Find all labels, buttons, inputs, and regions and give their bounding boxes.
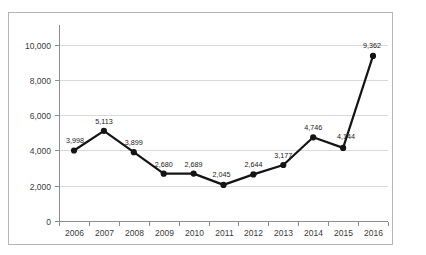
data-point bbox=[161, 171, 167, 177]
data-point-label: 2,045 bbox=[213, 170, 231, 179]
data-point bbox=[370, 53, 376, 59]
line-chart: 02,0004,0006,0008,00010,000 200620072008… bbox=[9, 13, 392, 244]
data-point bbox=[101, 128, 107, 134]
data-point-label: 3,998 bbox=[66, 136, 84, 145]
y-tick-label: 8,000 bbox=[30, 76, 52, 86]
data-point bbox=[131, 149, 137, 155]
data-point-label: 9,362 bbox=[363, 41, 381, 50]
y-tick-labels: 02,0004,0006,0008,00010,000 bbox=[25, 41, 51, 227]
x-tick-label: 2013 bbox=[274, 228, 293, 238]
y-tick-label: 6,000 bbox=[30, 111, 52, 121]
series-line bbox=[74, 56, 373, 185]
chart-frame: 02,0004,0006,0008,00010,000 200620072008… bbox=[8, 12, 393, 245]
series-markers bbox=[71, 53, 376, 188]
x-tick-labels: 2006200720082009201020112012201320142015… bbox=[65, 228, 383, 238]
y-tick-label: 0 bbox=[46, 217, 51, 227]
x-tick-label: 2011 bbox=[215, 228, 234, 238]
data-point-label: 3,899 bbox=[125, 138, 143, 147]
x-tick-label: 2012 bbox=[244, 228, 263, 238]
data-point-label: 4,144 bbox=[337, 132, 355, 141]
data-point-label: 2,644 bbox=[244, 160, 262, 169]
data-point-label: 4,746 bbox=[304, 123, 322, 132]
x-axis bbox=[59, 222, 389, 226]
data-point-label: 2,689 bbox=[185, 160, 203, 169]
x-tick-label: 2016 bbox=[364, 228, 383, 238]
x-tick-label: 2006 bbox=[65, 228, 84, 238]
x-tick-label: 2010 bbox=[185, 228, 204, 238]
data-point bbox=[71, 147, 77, 153]
data-point bbox=[220, 182, 226, 188]
x-tick-label: 2015 bbox=[334, 228, 353, 238]
data-point bbox=[250, 171, 256, 177]
data-point-label: 3,177 bbox=[274, 151, 292, 160]
y-tick-label: 2,000 bbox=[30, 182, 52, 192]
x-tick-label: 2007 bbox=[95, 228, 114, 238]
data-point bbox=[280, 162, 286, 168]
y-axis bbox=[55, 25, 60, 222]
data-point-label: 2,680 bbox=[155, 160, 173, 169]
data-point-labels: 3,9985,1133,8992,6802,6892,0452,6443,177… bbox=[66, 41, 381, 179]
x-tick-label: 2009 bbox=[155, 228, 174, 238]
data-point bbox=[310, 134, 316, 140]
data-point bbox=[340, 145, 346, 151]
x-tick-label: 2008 bbox=[125, 228, 144, 238]
y-tick-label: 4,000 bbox=[30, 146, 52, 156]
data-point-label: 5,113 bbox=[95, 117, 112, 126]
data-point bbox=[191, 171, 197, 177]
y-tick-label: 10,000 bbox=[25, 41, 51, 51]
x-tick-label: 2014 bbox=[304, 228, 323, 238]
